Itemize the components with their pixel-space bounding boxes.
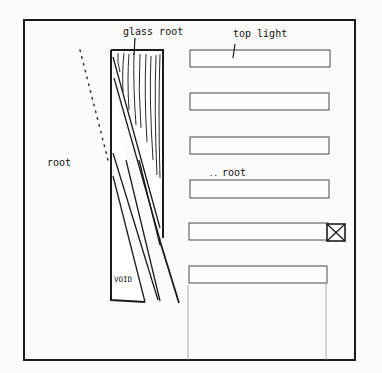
glass-roof-label: glass root (123, 26, 183, 37)
skylight-bars (189, 50, 330, 283)
skylight-bar-1 (190, 50, 330, 67)
roof-edge-dotted-line (80, 50, 109, 164)
roof-right-label: root (222, 167, 246, 178)
skylight-bar-4 (190, 180, 329, 198)
void-label: VOID (114, 275, 133, 284)
roof-left-label: root (47, 157, 71, 168)
void-diagonal-7 (159, 238, 179, 303)
x-box-marker (327, 224, 345, 241)
skylight-bar-3 (190, 137, 329, 154)
top-light-label: top light (233, 28, 287, 39)
skylight-bar-5 (189, 223, 328, 240)
roof-right-prefix: .. (209, 169, 218, 178)
skylight-bar-6 (189, 266, 327, 283)
roof-plan-sketch: glass root top light root .. root VOID (0, 0, 382, 373)
void-column (111, 50, 179, 303)
skylight-bar-2 (190, 93, 329, 110)
